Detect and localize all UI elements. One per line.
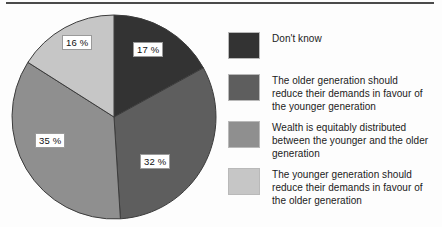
- slice-label-3: 16 %: [62, 35, 92, 50]
- legend-item-3[interactable]: The younger generation should reduce the…: [228, 168, 423, 208]
- slice-label-0: 17 %: [133, 42, 163, 57]
- pie-chart-svg: [0, 4, 222, 227]
- legend-item-2[interactable]: Wealth is equitably distributed between …: [228, 121, 428, 161]
- legend-label-0: Don't know: [272, 32, 322, 45]
- legend-item-1[interactable]: The older generation should reduce their…: [228, 74, 423, 114]
- legend-label-3: The younger generation should reduce the…: [272, 168, 423, 208]
- legend-label-1: The older generation should reduce their…: [272, 74, 423, 114]
- pie-chart-area: 17 % 32 % 35 % 16 %: [0, 4, 222, 227]
- chart-figure: 17 % 32 % 35 % 16 % Don't know The older…: [0, 0, 442, 227]
- legend-swatch-3: [228, 168, 260, 195]
- slice-label-1: 32 %: [140, 154, 170, 169]
- slice-label-2: 35 %: [35, 133, 65, 148]
- legend-swatch-1: [228, 74, 260, 101]
- legend-item-0[interactable]: Don't know: [228, 32, 322, 59]
- legend-swatch-0: [228, 32, 260, 59]
- chart-legend: Don't know The older generation should r…: [228, 8, 442, 220]
- legend-label-2: Wealth is equitably distributed between …: [272, 121, 428, 161]
- legend-swatch-2: [228, 121, 260, 148]
